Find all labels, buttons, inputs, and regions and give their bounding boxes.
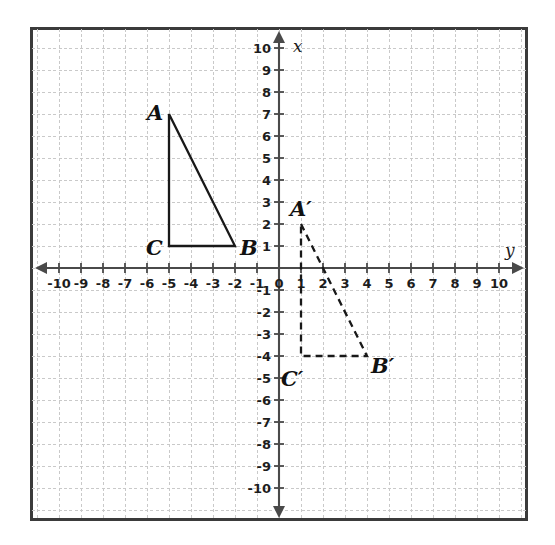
y-axis-tick-label: -9 xyxy=(257,459,271,474)
x-axis-tick-label: 0 xyxy=(274,276,283,291)
y-axis-tick-label: -5 xyxy=(257,371,271,386)
x-axis-tick-label: 9 xyxy=(472,276,481,291)
y-axis-tick-label: 10 xyxy=(253,41,271,56)
x-axis-tick-label: -4 xyxy=(184,276,198,291)
x-axis-tick-label: -8 xyxy=(96,276,110,291)
y-axis-tick-label: 6 xyxy=(262,129,271,144)
x-axis-tick-label: 7 xyxy=(428,276,437,291)
y-axis-tick-label: 3 xyxy=(262,195,271,210)
x-axis-tick-label: -2 xyxy=(228,276,242,291)
y-axis-tick-label: 5 xyxy=(262,151,271,166)
x-axis-tick-label: -5 xyxy=(162,276,176,291)
vertex-label-a-prime: A′ xyxy=(288,196,312,221)
y-axis-tick-label: -4 xyxy=(257,349,271,364)
x-axis-tick-label: 2 xyxy=(318,276,327,291)
coordinate-plane-figure: -10-9-8-7-6-5-4-3-2-10123456789101098765… xyxy=(0,0,555,545)
y-axis-tick-label: 9 xyxy=(262,63,271,78)
x-axis-tick-label: 6 xyxy=(406,276,415,291)
y-axis-tick-label: -3 xyxy=(257,327,271,342)
y-axis-tick-label: 7 xyxy=(262,107,271,122)
x-axis-tick-label: -10 xyxy=(47,276,71,291)
x-axis-tick-label: 4 xyxy=(362,276,371,291)
x-axis-tick-label: 8 xyxy=(450,276,459,291)
y-axis-tick-label: -10 xyxy=(248,481,272,496)
x-axis-name-label: x xyxy=(293,36,303,56)
y-axis-tick-label: 2 xyxy=(262,217,271,232)
x-axis-tick-label: -6 xyxy=(140,276,154,291)
coordinate-plane-svg: -10-9-8-7-6-5-4-3-2-10123456789101098765… xyxy=(0,0,555,545)
vertex-label-c: C xyxy=(146,235,163,260)
vertex-label-a: A xyxy=(145,100,163,125)
y-axis-tick-label: -1 xyxy=(257,283,271,298)
vertex-label-b-prime: B′ xyxy=(370,353,395,378)
y-axis-tick-label: 8 xyxy=(262,85,271,100)
x-axis-tick-label: 3 xyxy=(340,276,349,291)
y-axis-name-label: y xyxy=(504,240,515,260)
vertex-label-c-prime: C′ xyxy=(281,366,304,391)
x-axis-tick-label: -7 xyxy=(118,276,132,291)
x-axis-tick-label: -9 xyxy=(74,276,88,291)
vertex-label-b: B xyxy=(239,235,258,260)
y-axis-tick-label: -7 xyxy=(257,415,271,430)
y-axis-tick-label: -8 xyxy=(257,437,271,452)
y-axis-tick-label: 4 xyxy=(262,173,271,188)
x-axis-tick-label: 10 xyxy=(490,276,508,291)
x-axis-tick-label: -3 xyxy=(206,276,220,291)
y-axis-tick-label: -6 xyxy=(257,393,271,408)
y-axis-tick-label: 1 xyxy=(262,239,271,254)
y-axis-tick-label: -2 xyxy=(257,305,271,320)
x-axis-tick-label: 5 xyxy=(384,276,393,291)
